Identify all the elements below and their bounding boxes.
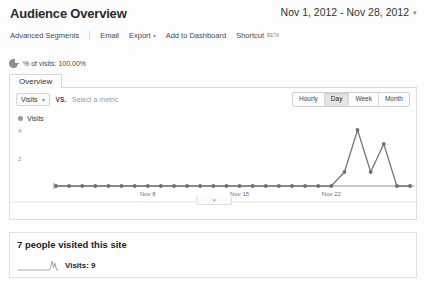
data-point-marker[interactable]: [54, 184, 58, 188]
visits-chart-svg: 24Nov 8Nov 15Nov 22: [10, 126, 418, 204]
metric-selector-row: Visits ▾ VS. Select a metric: [16, 93, 118, 106]
y-axis-tick-label: 4: [18, 128, 22, 134]
data-point-marker[interactable]: [238, 184, 242, 188]
report-tabstrip: Overview: [9, 73, 417, 88]
segment-label: % of visits: 100.00%: [23, 60, 86, 67]
x-axis-tick-label: Nov 8: [140, 191, 156, 197]
data-point-marker[interactable]: [303, 184, 307, 188]
data-point-marker[interactable]: [120, 184, 124, 188]
data-point-marker[interactable]: [198, 184, 202, 188]
data-point-marker[interactable]: [185, 184, 189, 188]
export-button[interactable]: Export ▾: [129, 31, 156, 40]
add-to-dashboard-button[interactable]: Add to Dashboard: [166, 31, 226, 40]
data-point-marker[interactable]: [80, 184, 84, 188]
data-point-marker[interactable]: [225, 184, 229, 188]
granularity-month-button[interactable]: Month: [379, 93, 409, 106]
data-point-marker[interactable]: [408, 184, 412, 188]
export-label: Export: [129, 31, 151, 40]
chevron-down-icon: ▾: [153, 32, 156, 39]
add-to-dashboard-label: Add to Dashboard: [166, 31, 226, 40]
vs-label: VS.: [56, 96, 66, 103]
data-point-marker[interactable]: [290, 184, 294, 188]
legend-series-label: Visits: [27, 115, 44, 122]
x-axis-tick-label: Nov 15: [230, 191, 250, 197]
chevron-down-icon: ▾: [42, 96, 45, 103]
email-label: Email: [100, 31, 119, 40]
data-point-marker[interactable]: [329, 184, 333, 188]
primary-metric-select[interactable]: Visits ▾: [16, 93, 50, 106]
data-point-marker[interactable]: [395, 184, 399, 188]
granularity-hourly-button[interactable]: Hourly: [293, 93, 325, 106]
data-point-marker[interactable]: [133, 184, 137, 188]
data-point-marker[interactable]: [251, 184, 255, 188]
advanced-segments-button[interactable]: Advanced Segments: [10, 31, 79, 40]
chevron-down-icon: ▾: [413, 9, 417, 16]
page-title: Audience Overview: [10, 6, 127, 21]
date-range-picker[interactable]: Nov 1, 2012 - Nov 28, 2012 ▾: [281, 6, 417, 18]
chart-legend: Visits: [18, 115, 44, 122]
beta-badge: BETA: [267, 33, 279, 38]
legend-series-dot-icon: [18, 116, 23, 121]
summary-panel: 7 people visited this site Visits: 9: [9, 232, 417, 278]
shortcut-label: Shortcut: [236, 31, 264, 40]
y-axis-tick-label: 2: [18, 156, 22, 162]
audience-overview-page: Audience Overview Nov 1, 2012 - Nov 28, …: [0, 0, 425, 284]
data-point-marker[interactable]: [264, 184, 268, 188]
data-point-marker[interactable]: [382, 142, 386, 146]
tab-overview-label: Overview: [19, 77, 52, 86]
shortcut-button[interactable]: Shortcut BETA: [236, 31, 279, 40]
data-point-marker[interactable]: [172, 184, 176, 188]
data-point-marker[interactable]: [369, 170, 373, 174]
summary-headline: 7 people visited this site: [17, 239, 127, 250]
report-toolbar: Advanced Segments Email Export ▾ Add to …: [0, 27, 425, 43]
data-point-marker[interactable]: [211, 184, 215, 188]
secondary-metric-select[interactable]: Select a metric: [72, 96, 118, 103]
segment-row[interactable]: % of visits: 100.00%: [0, 55, 425, 71]
toolbar-divider: [89, 31, 90, 40]
visits-sparkline: [17, 260, 59, 271]
page-header: Audience Overview Nov 1, 2012 - Nov 28, …: [0, 0, 425, 26]
primary-metric-label: Visits: [21, 96, 38, 103]
chart-collapse-handle[interactable]: ▾: [196, 197, 232, 205]
sparkline-series-line: [18, 261, 58, 270]
visits-line-chart[interactable]: 24Nov 8Nov 15Nov 22 ▾: [10, 126, 418, 204]
data-point-marker[interactable]: [356, 128, 360, 132]
data-point-marker[interactable]: [107, 184, 111, 188]
data-point-marker[interactable]: [316, 184, 320, 188]
summary-metric-row[interactable]: Visits: 9: [17, 260, 96, 271]
x-axis-tick-label: Nov 22: [322, 191, 342, 197]
data-point-marker[interactable]: [159, 184, 163, 188]
chart-panel: Visits ▾ VS. Select a metric Hourly Day …: [9, 88, 417, 220]
data-point-marker[interactable]: [146, 184, 150, 188]
data-point-marker[interactable]: [67, 184, 71, 188]
email-button[interactable]: Email: [100, 31, 119, 40]
data-point-marker[interactable]: [277, 184, 281, 188]
granularity-day-button[interactable]: Day: [325, 93, 350, 106]
advanced-segments-label: Advanced Segments: [10, 31, 79, 40]
chevron-down-icon: ▾: [213, 198, 216, 203]
date-range-label: Nov 1, 2012 - Nov 28, 2012: [281, 6, 409, 18]
granularity-week-button[interactable]: Week: [349, 93, 379, 106]
pie-chart-icon: [9, 59, 18, 68]
visits-series-line: [56, 130, 410, 186]
summary-metric-label: Visits: 9: [65, 261, 96, 270]
data-point-marker[interactable]: [93, 184, 97, 188]
data-point-marker[interactable]: [343, 170, 347, 174]
granularity-button-group: Hourly Day Week Month: [292, 92, 410, 107]
